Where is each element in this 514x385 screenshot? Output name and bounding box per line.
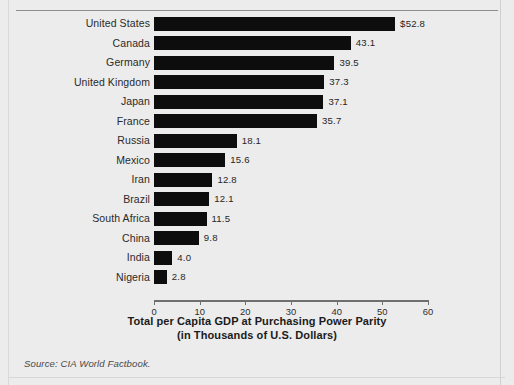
bar-category-label: Russia [117,131,150,151]
bar-category-label: France [117,112,150,132]
bar-category-label: India [127,248,150,268]
bar-category-label: United States [86,14,150,34]
bar [154,251,172,265]
x-axis-tick [291,300,292,305]
bar-value-label: 37.3 [324,75,348,89]
bar-track: 12.1 [154,192,209,206]
bar-value-label: 18.1 [237,134,261,148]
bar-track: 9.8 [154,231,199,245]
bar-value-label: 35.7 [317,114,341,128]
bar-value-label: 9.8 [199,231,218,245]
bar-category-label: United Kingdom [74,73,150,93]
bar-value-label: 12.1 [209,192,233,206]
bar-value-label: 39.5 [334,56,358,70]
source-note: Source: CIA World Factbook. [24,358,151,369]
bar-track: 2.8 [154,270,167,284]
bar-category-label: Mexico [116,151,150,171]
bar-row: Iran12.8 [0,170,514,190]
x-axis-tick [337,300,338,305]
bar-value-label: 12.8 [212,173,236,187]
bar-value-label: 15.6 [225,153,249,167]
bar-track: 4.0 [154,251,172,265]
bar-category-label: Iran [132,170,151,190]
x-axis-tick [382,300,383,305]
bar-row: Canada43.1 [0,34,514,54]
bar [154,56,334,70]
bar-track: 39.5 [154,56,334,70]
bar [154,95,323,109]
bar-row: United States$52.8 [0,14,514,34]
bar [154,114,317,128]
bar-track: $52.8 [154,17,395,31]
bar [154,134,237,148]
bar-track: 37.1 [154,95,323,109]
bar-category-label: Brazil [123,190,150,210]
bar-row: France35.7 [0,112,514,132]
bar [154,231,199,245]
bar-row: Brazil12.1 [0,190,514,210]
bar [154,17,395,31]
bar-row: United Kingdom37.3 [0,73,514,93]
bar-value-label: 37.1 [323,95,347,109]
bar-value-label: $52.8 [395,17,425,31]
bar [154,36,351,50]
x-axis-title-line1: Total per Capita GDP at Purchasing Power… [127,315,386,327]
top-divider-rule [16,10,498,11]
bar-track: 18.1 [154,134,237,148]
x-axis-title: Total per Capita GDP at Purchasing Power… [0,314,514,342]
bar-category-label: Nigeria [116,268,150,288]
bar-row: Japan37.1 [0,92,514,112]
bar-value-label: 4.0 [172,251,191,265]
bar-category-label: Canada [113,34,150,54]
x-axis-tick [200,300,201,305]
x-axis-title-line2: (in Thousands of U.S. Dollars) [0,328,514,342]
bar [154,153,225,167]
bar-row: Germany39.5 [0,53,514,73]
bar-track: 12.8 [154,173,212,187]
x-axis-tick [245,300,246,305]
bar-track: 35.7 [154,114,317,128]
bar [154,192,209,206]
bar [154,173,212,187]
bar-row: Russia18.1 [0,131,514,151]
bar-row: India4.0 [0,248,514,268]
bar-track: 37.3 [154,75,324,89]
bar-category-label: Japan [121,92,150,112]
bar-row: Mexico15.6 [0,151,514,171]
x-axis: 0102030405060 [154,300,428,302]
bar-value-label: 11.5 [207,212,231,226]
bar-chart-plot-area: United States$52.8Canada43.1Germany39.5U… [0,14,514,300]
bar-row: Nigeria2.8 [0,268,514,288]
bar-value-label: 2.8 [167,270,186,284]
bar-track: 11.5 [154,212,207,226]
x-axis-tick [154,300,155,305]
bar [154,270,167,284]
page-edge-bottom [9,377,505,378]
chart-figure: United States$52.8Canada43.1Germany39.5U… [0,0,514,385]
x-axis-tick [428,300,429,305]
bar-category-label: Germany [106,53,150,73]
bar-category-label: China [122,229,150,249]
bar-track: 43.1 [154,36,351,50]
bar-track: 15.6 [154,153,225,167]
bar [154,75,324,89]
bar [154,212,207,226]
bar-value-label: 43.1 [351,36,375,50]
bar-row: South Africa11.5 [0,209,514,229]
bar-row: China9.8 [0,229,514,249]
bar-category-label: South Africa [92,209,150,229]
